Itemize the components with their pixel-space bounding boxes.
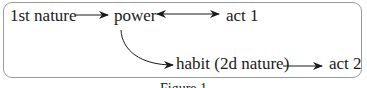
diagram-arrows [0,0,367,88]
figure-caption: Figure 1 [0,82,367,88]
arrow-power-to-habit-curved [121,30,173,65]
